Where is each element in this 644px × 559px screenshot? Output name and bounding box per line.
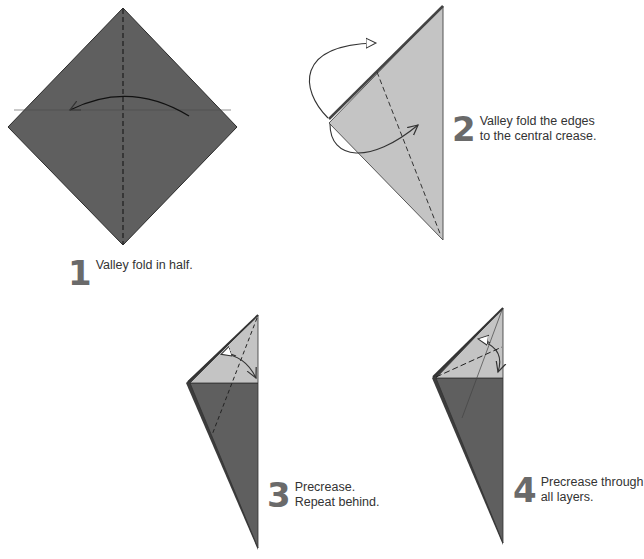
step-4-caption: 4 Precrease through all layers. — [513, 475, 644, 505]
paper-dark-section — [436, 378, 503, 543]
step-3-text: Precrease. Repeat behind. — [295, 480, 380, 510]
paper-dark-section — [190, 383, 258, 548]
step-3-diagram — [186, 315, 258, 550]
step-3-caption: 3 Precrease. Repeat behind. — [267, 480, 379, 510]
step-2-diagram — [309, 6, 443, 240]
step-1-number: 1 — [68, 258, 92, 288]
paper-triangle — [329, 6, 443, 240]
step-1-diagram — [8, 8, 237, 245]
step-4-number: 4 — [513, 475, 537, 505]
step-2-number: 2 — [452, 114, 476, 144]
step-4-text: Precrease through all layers. — [541, 475, 644, 505]
step-4-diagram — [432, 308, 503, 545]
step-1-text: Valley fold in half. — [96, 258, 193, 273]
step-1-caption: 1 Valley fold in half. — [68, 258, 193, 288]
step-3-number: 3 — [267, 480, 291, 510]
step-2-caption: 2 Valley fold the edges to the central c… — [452, 114, 596, 144]
step-2-text: Valley fold the edges to the central cre… — [480, 114, 597, 144]
